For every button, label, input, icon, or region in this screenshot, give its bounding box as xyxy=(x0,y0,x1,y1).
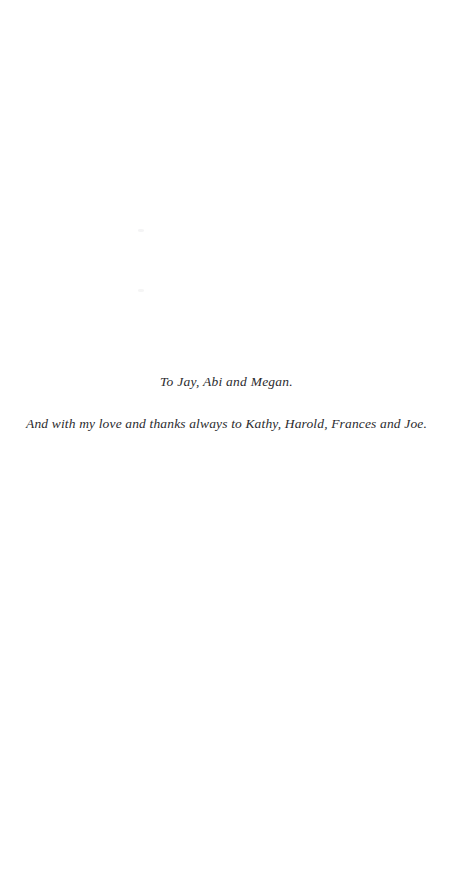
dedication-page: To Jay, Abi and Megan. And with my love … xyxy=(0,0,453,884)
dedication-text-block: To Jay, Abi and Megan. And with my love … xyxy=(0,374,453,432)
dedication-line-secondary: And with my love and thanks always to Ka… xyxy=(0,416,453,432)
dedication-line-primary: To Jay, Abi and Megan. xyxy=(0,374,453,390)
scan-speck-upper-icon xyxy=(138,229,144,232)
scan-speck-lower-icon xyxy=(138,289,144,292)
